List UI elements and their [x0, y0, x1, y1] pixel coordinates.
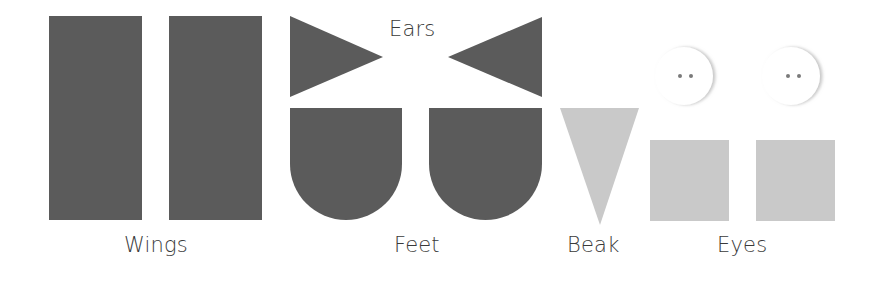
foot-piece-left [290, 108, 402, 220]
eye-piece-left [650, 140, 729, 221]
wing-piece-right [169, 16, 262, 220]
wing-piece-left [49, 16, 142, 220]
eyes-group [650, 47, 835, 221]
button-hole [689, 74, 693, 78]
button-icon [655, 47, 713, 105]
feet-group [290, 108, 542, 220]
button-hole [786, 74, 790, 78]
ears-label: Ears [389, 19, 436, 40]
wings-label: Wings [124, 235, 188, 256]
eyes-label: Eyes [717, 235, 767, 256]
ear-piece-right [448, 17, 542, 97]
button-icon [762, 47, 820, 105]
owl-craft-pieces-diagram: Wings Ears Feet Beak Eyes [0, 0, 881, 281]
foot-piece-right [429, 108, 542, 220]
eye-piece-right [756, 140, 835, 221]
beak-label: Beak [567, 235, 620, 256]
ear-piece-left [290, 16, 383, 97]
wings-group [49, 16, 262, 220]
eye-button-right [762, 47, 820, 105]
eye-button-left [655, 47, 713, 105]
feet-label: Feet [394, 235, 440, 256]
button-hole [678, 74, 682, 78]
button-hole [797, 74, 801, 78]
beak-piece [560, 108, 639, 225]
beak-group [560, 108, 639, 225]
